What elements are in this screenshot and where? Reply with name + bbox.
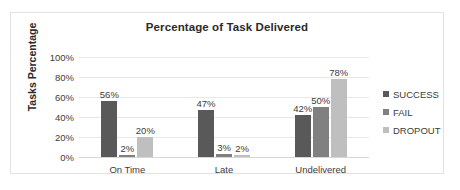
bar[interactable] bbox=[216, 154, 232, 157]
y-axis-tick-label: 60% bbox=[55, 92, 74, 103]
x-axis-tick-label: Late bbox=[176, 164, 273, 175]
bar-value-label: 56% bbox=[100, 89, 119, 100]
bar-value-label: 50% bbox=[311, 95, 330, 106]
bar-value-label: 2% bbox=[235, 143, 249, 154]
bar-slot: 3% bbox=[216, 57, 232, 157]
bar-slot: 20% bbox=[137, 57, 153, 157]
bar-group: 47%3%2%Late bbox=[176, 57, 273, 157]
chart-container: Percentage of Task Delivered Tasks Perce… bbox=[10, 12, 444, 174]
bar-slot: 78% bbox=[331, 57, 347, 157]
y-axis-title: Tasks Percentage bbox=[26, 22, 38, 112]
bar-slot: 56% bbox=[101, 57, 117, 157]
y-axis-tick-label: 0% bbox=[60, 152, 74, 163]
bar-group-bars: 47%3%2% bbox=[176, 57, 273, 157]
bar-value-label: 78% bbox=[329, 67, 348, 78]
legend-item[interactable]: SUCCESS bbox=[383, 85, 460, 103]
bar-group-bars: 42%50%78% bbox=[272, 57, 369, 157]
y-axis-tick-label: 20% bbox=[55, 132, 74, 143]
bar[interactable] bbox=[295, 115, 311, 157]
bar-groups: 56%2%20%On Time47%3%2%Late42%50%78%Undel… bbox=[79, 57, 369, 157]
legend-item-label: SUCCESS bbox=[393, 89, 439, 100]
bar[interactable] bbox=[119, 155, 135, 157]
bar-slot: 42% bbox=[295, 57, 311, 157]
x-axis-tick-label: On Time bbox=[79, 164, 176, 175]
bar-slot: 2% bbox=[119, 57, 135, 157]
legend-item-label: FAIL bbox=[393, 107, 413, 118]
bar[interactable] bbox=[313, 107, 329, 157]
gridline: 0% bbox=[79, 157, 369, 158]
legend-swatch-icon bbox=[383, 91, 389, 97]
bar[interactable] bbox=[137, 137, 153, 157]
legend-item[interactable]: FAIL bbox=[383, 103, 460, 121]
bar[interactable] bbox=[234, 155, 250, 157]
bar[interactable] bbox=[331, 79, 347, 157]
bar-value-label: 20% bbox=[136, 125, 155, 136]
bar[interactable] bbox=[198, 110, 214, 157]
plot-area: 100%80%60%40%20%0% 56%2%20%On Time47%3%2… bbox=[79, 57, 369, 157]
bar-group-bars: 56%2%20% bbox=[79, 57, 176, 157]
bar[interactable] bbox=[101, 101, 117, 157]
bar-slot: 47% bbox=[198, 57, 214, 157]
chart-title: Percentage of Task Delivered bbox=[11, 21, 443, 33]
legend-item[interactable]: DROPOUT bbox=[383, 121, 460, 139]
legend-swatch-icon bbox=[383, 127, 389, 133]
chart-legend: SUCCESSFAILDROPOUT bbox=[383, 85, 460, 139]
bar-value-label: 2% bbox=[120, 143, 134, 154]
bar-group: 56%2%20%On Time bbox=[79, 57, 176, 157]
legend-swatch-icon bbox=[383, 109, 389, 115]
x-axis-tick-label: Undelivered bbox=[272, 164, 369, 175]
y-axis-tick-label: 100% bbox=[50, 52, 74, 63]
bar-slot: 50% bbox=[313, 57, 329, 157]
bar-value-label: 47% bbox=[196, 98, 215, 109]
y-axis-tick-label: 40% bbox=[55, 112, 74, 123]
bar-slot: 2% bbox=[234, 57, 250, 157]
bar-group: 42%50%78%Undelivered bbox=[272, 57, 369, 157]
legend-item-label: DROPOUT bbox=[393, 125, 441, 136]
y-axis-tick-label: 80% bbox=[55, 72, 74, 83]
bar-value-label: 3% bbox=[217, 142, 231, 153]
bar-value-label: 42% bbox=[293, 103, 312, 114]
